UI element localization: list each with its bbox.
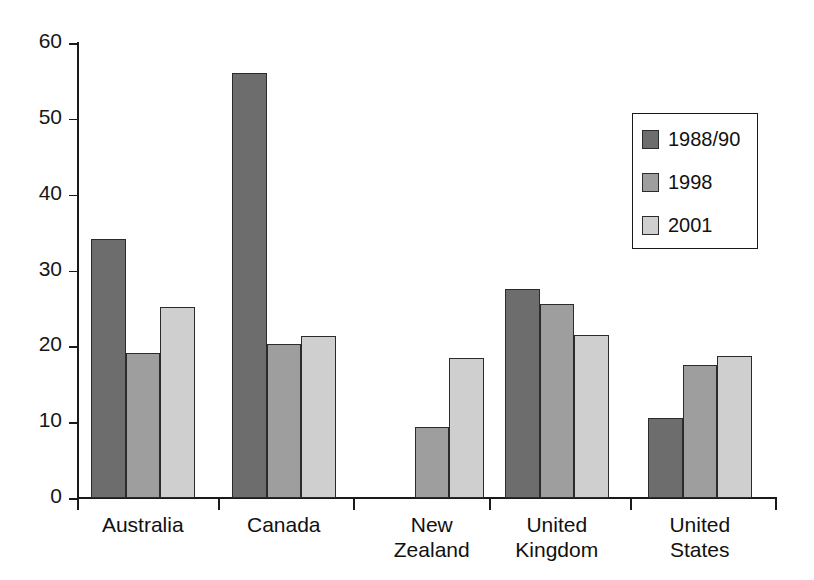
- y-axis-tick-label: 20: [39, 333, 62, 354]
- x-axis-tick: [775, 498, 777, 510]
- x-axis-tick: [630, 498, 632, 510]
- y-axis-tick-label: 10: [39, 409, 62, 430]
- bar: [648, 418, 683, 498]
- x-axis-category-label: United Kingdom: [477, 512, 637, 562]
- y-axis-tick-label: 60: [39, 30, 62, 51]
- bar: [301, 336, 336, 498]
- bar-chart: 0102030405060 AustraliaCanadaNew Zealand…: [0, 0, 814, 580]
- x-axis-category-label: Australia: [63, 512, 223, 537]
- legend-label: 1998: [668, 172, 713, 192]
- bar: [505, 289, 540, 498]
- y-axis-tick-label: 40: [39, 182, 62, 203]
- plot-area: [78, 43, 776, 498]
- legend-swatch-icon: [642, 173, 659, 192]
- x-axis-category-label: Canada: [204, 512, 364, 537]
- legend-swatch-icon: [642, 216, 659, 235]
- x-axis-category-label: United States: [620, 512, 780, 562]
- bar: [683, 365, 718, 498]
- legend: 1988/90 1998 2001: [632, 113, 758, 249]
- bar: [91, 239, 126, 498]
- bar: [415, 427, 450, 498]
- legend-swatch-icon: [642, 130, 659, 149]
- x-axis-tick: [353, 498, 355, 510]
- bar: [160, 307, 195, 498]
- bar: [540, 304, 575, 498]
- bar: [232, 73, 267, 498]
- bar: [449, 358, 484, 498]
- x-axis-tick: [218, 498, 220, 510]
- bar: [267, 344, 302, 498]
- legend-item-2001[interactable]: 2001: [642, 214, 713, 236]
- legend-label: 1988/90: [668, 129, 740, 149]
- y-axis: 0102030405060: [0, 0, 78, 580]
- bar: [574, 335, 609, 498]
- y-axis-tick-label: 50: [39, 106, 62, 127]
- y-axis-tick-label: 0: [50, 485, 62, 506]
- y-axis-tick-label: 30: [39, 258, 62, 279]
- bar: [126, 353, 161, 498]
- bar: [717, 356, 752, 498]
- legend-item-1998[interactable]: 1998: [642, 171, 713, 193]
- x-axis-tick: [77, 498, 79, 510]
- legend-item-1988-90[interactable]: 1988/90: [642, 128, 740, 150]
- legend-label: 2001: [668, 215, 713, 235]
- x-axis-tick: [489, 498, 491, 510]
